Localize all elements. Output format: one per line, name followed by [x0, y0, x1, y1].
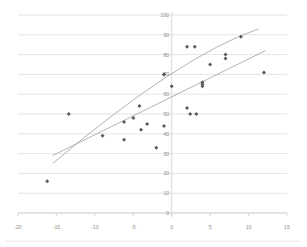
- data-point: [145, 122, 149, 126]
- data-point: [224, 57, 228, 61]
- y-tick-label-0: 0: [166, 210, 169, 216]
- x-tick-label-10: 10: [246, 224, 252, 230]
- data-point: [193, 45, 197, 49]
- data-point: [162, 124, 166, 128]
- data-point: [154, 146, 158, 150]
- y-tick-label-90: 90: [163, 32, 169, 38]
- data-point: [139, 128, 143, 132]
- y-tick-label-100: 100: [161, 12, 170, 18]
- data-point: [122, 138, 126, 142]
- x-tick-label--20: -20: [14, 224, 22, 230]
- data-point: [224, 53, 228, 57]
- y-tick-label-10: 10: [163, 190, 169, 196]
- x-tick-label-0: 0: [170, 224, 173, 230]
- y-tick-label-40: 40: [163, 131, 169, 137]
- data-point: [185, 45, 189, 49]
- x-tick-label--15: -15: [53, 224, 61, 230]
- data-point: [101, 134, 105, 138]
- data-point: [170, 84, 174, 88]
- x-tick-label-5: 5: [209, 224, 212, 230]
- y-tick-label-50: 50: [163, 111, 169, 117]
- x-tick-label--5: -5: [131, 224, 136, 230]
- x-tick-label--10: -10: [91, 224, 99, 230]
- trendline-polynomial-fit: [53, 29, 259, 164]
- y-tick-label-60: 60: [163, 91, 169, 97]
- data-point: [137, 104, 141, 108]
- data-point: [67, 112, 71, 116]
- y-tick-label-30: 30: [163, 151, 169, 157]
- data-point: [185, 106, 189, 110]
- chart-canvas: 0102030405060708090100-20-15-10-5051015: [0, 0, 307, 247]
- y-tick-label-80: 80: [163, 52, 169, 58]
- data-point: [45, 179, 49, 183]
- y-tick-label-20: 20: [163, 170, 169, 176]
- scatter-chart: 0102030405060708090100-20-15-10-5051015: [0, 0, 307, 247]
- x-tick-label-15: 15: [284, 224, 290, 230]
- data-point: [194, 112, 198, 116]
- data-point: [188, 112, 192, 116]
- trendline-linear-fit: [53, 51, 266, 156]
- data-point: [262, 70, 266, 74]
- data-point: [122, 120, 126, 124]
- data-point: [208, 63, 212, 67]
